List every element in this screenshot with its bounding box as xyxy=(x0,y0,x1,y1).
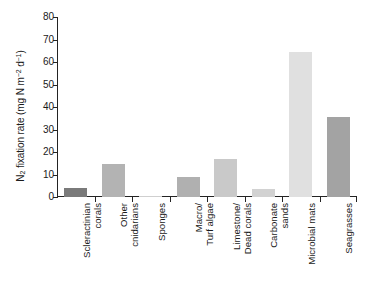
x-axis-label: Scleractinian corals xyxy=(81,203,111,291)
x-tick-mark xyxy=(282,197,283,202)
plot-area xyxy=(57,17,357,197)
bar xyxy=(102,164,125,197)
y-tick-label: 40 xyxy=(32,102,54,112)
bar xyxy=(252,189,275,197)
x-axis-label: Seagrasses xyxy=(343,203,366,291)
y-tick-label-group: 01020304050607080 xyxy=(30,0,54,291)
bar xyxy=(289,52,312,197)
y-tick-label: 0 xyxy=(32,192,54,202)
x-axis-label: Limestone/ Dead corals xyxy=(231,203,261,291)
x-axis-label: Carbonate sands xyxy=(268,203,298,291)
x-tick-mark xyxy=(95,197,96,202)
bar xyxy=(64,188,87,197)
bar xyxy=(139,196,162,197)
x-axis-label: Macro/ Turf algae xyxy=(193,203,223,291)
bar-group xyxy=(57,17,357,197)
x-tick-mark xyxy=(132,197,133,202)
bar xyxy=(327,117,350,197)
y-tick-label: 80 xyxy=(32,12,54,22)
y-tick-label: 10 xyxy=(32,170,54,180)
x-axis-label: Sponges xyxy=(156,203,186,291)
bar xyxy=(214,159,237,197)
y-axis-title: N2 fixation rate (mg N m−2 d−1) xyxy=(10,18,32,214)
x-axis-label-group: Scleractinian coralsOther cnidariansSpon… xyxy=(57,203,357,291)
y-tick-label: 50 xyxy=(32,80,54,90)
y-tick-label: 20 xyxy=(32,147,54,157)
x-tick-mark xyxy=(207,197,208,202)
y-tick-label: 70 xyxy=(32,35,54,45)
y-axis-title-text: N2 fixation rate (mg N m−2 d−1) xyxy=(15,50,26,181)
x-tick-mark xyxy=(356,197,357,202)
y-tick-label: 60 xyxy=(32,57,54,67)
bar-chart-figure: N2 fixation rate (mg N m−2 d−1) 01020304… xyxy=(0,0,366,291)
x-tick-mark xyxy=(320,197,321,202)
x-axis-label: Other cnidarians xyxy=(118,203,148,291)
bar xyxy=(177,177,200,197)
x-tick-mark xyxy=(245,197,246,202)
y-tick-mark xyxy=(53,197,57,198)
y-tick-label: 30 xyxy=(32,125,54,135)
x-tick-mark xyxy=(170,197,171,202)
x-axis-label: Microbial mats xyxy=(306,203,336,291)
